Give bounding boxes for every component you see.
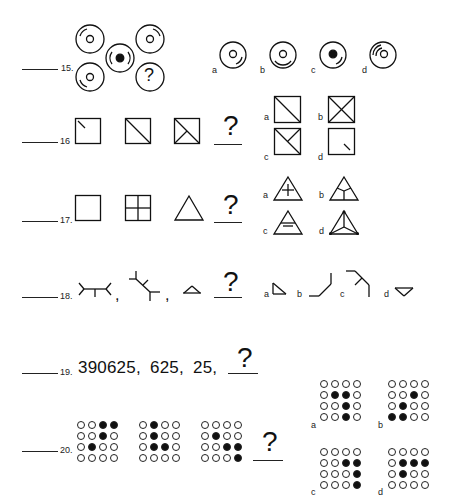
q20-answer-line[interactable] [253,460,283,461]
q19-term-1: 390625, [78,358,141,378]
question-number-20: 20. [60,445,73,455]
option-17a-figure[interactable] [273,176,303,201]
option-20d-grid[interactable] [388,448,431,491]
q17-answer-line[interactable] [214,222,242,223]
option-label-15b[interactable]: b [260,65,265,75]
answer-blank-19[interactable] [22,373,58,374]
option-label-15d[interactable]: d [362,65,367,75]
option-label-20d[interactable]: d [378,487,383,497]
filled-dot [161,443,169,451]
answer-blank-15[interactable] [22,69,58,70]
q16-figure-1 [75,118,101,144]
empty-dot [388,402,396,410]
question-number-19: 19. [60,367,73,377]
option-label-20a[interactable]: a [311,420,316,430]
option-label-16a[interactable]: a [264,112,269,122]
option-label-18c[interactable]: c [340,289,345,299]
empty-dot [161,432,169,440]
empty-dot [410,470,418,478]
filled-dot [388,413,396,421]
q17-figure-square [75,195,101,221]
q18-comma-2: , [165,286,169,304]
q18-answer-line[interactable] [214,297,242,298]
filled-dot [99,421,107,429]
empty-dot [320,470,328,478]
option-label-15c[interactable]: c [311,65,316,75]
empty-dot [99,443,107,451]
q16-question-mark: ? [223,112,239,140]
option-17d-figure[interactable] [329,210,359,235]
empty-dot [399,448,407,456]
option-label-15a[interactable]: a [212,65,217,75]
empty-dot [77,443,85,451]
option-label-16d[interactable]: d [318,152,323,162]
q20-question-mark: ? [262,428,278,456]
empty-dot [399,380,407,388]
empty-dot [421,380,429,388]
empty-dot [172,454,180,462]
option-20b-grid[interactable] [388,380,431,423]
option-20c-grid[interactable] [320,448,363,491]
option-label-18d[interactable]: d [384,289,389,299]
q18-figure-2 [128,270,162,302]
empty-dot [353,402,361,410]
option-label-17a[interactable]: a [263,190,268,200]
empty-dot [421,470,429,478]
empty-dot [223,421,231,429]
answer-blank-17[interactable] [22,221,58,222]
empty-dot [223,432,231,440]
option-15b-figure[interactable] [268,40,298,70]
answer-blank-18[interactable] [22,297,58,298]
option-17b-figure[interactable] [329,176,359,201]
option-label-20b[interactable]: b [378,420,383,430]
option-18b-figure[interactable] [308,272,333,298]
option-label-18b[interactable]: b [297,289,302,299]
option-15d-figure[interactable] [368,40,398,70]
empty-dot [353,391,361,399]
option-16c-figure[interactable] [274,128,301,155]
option-label-16b[interactable]: b [318,112,323,122]
empty-dot [421,481,429,489]
answer-blank-16[interactable] [22,142,58,143]
empty-dot [139,454,147,462]
option-20a-grid[interactable] [320,380,363,423]
empty-dot [421,448,429,456]
empty-dot [320,459,328,467]
option-label-16c[interactable]: c [264,152,269,162]
option-17c-figure[interactable] [273,210,303,235]
empty-dot [388,459,396,467]
empty-dot [342,481,350,489]
empty-dot [331,481,339,489]
filled-dot [353,481,361,489]
answer-blank-20[interactable] [22,451,58,452]
empty-dot [212,421,220,429]
question-number-16: 16 [60,136,70,146]
empty-dot [139,432,147,440]
question-number-15: 15. [61,63,74,73]
option-16b-figure[interactable] [328,96,355,123]
q16-answer-line[interactable] [214,144,242,145]
empty-dot [234,421,242,429]
option-label-17d[interactable]: d [319,226,324,236]
q17-figure-triangle [174,195,204,221]
empty-dot [331,402,339,410]
filled-dot [234,443,242,451]
option-16d-figure[interactable] [328,128,355,155]
option-label-17b[interactable]: b [319,190,324,200]
option-16a-figure[interactable] [274,96,301,123]
option-15c-figure[interactable] [318,40,348,70]
option-18a-figure[interactable] [272,282,288,296]
option-18c-figure[interactable] [345,270,371,298]
empty-dot [353,380,361,388]
option-label-17c[interactable]: c [263,226,268,236]
option-18d-figure[interactable] [394,287,414,297]
option-15a-figure[interactable] [218,40,248,70]
filled-dot [399,402,407,410]
option-label-20c[interactable]: c [311,487,316,497]
filled-dot [421,459,429,467]
empty-dot [212,454,220,462]
q19-answer-line[interactable] [228,373,258,374]
empty-dot [320,448,328,456]
option-label-18a[interactable]: a [264,289,269,299]
question-number-17: 17. [60,215,73,225]
